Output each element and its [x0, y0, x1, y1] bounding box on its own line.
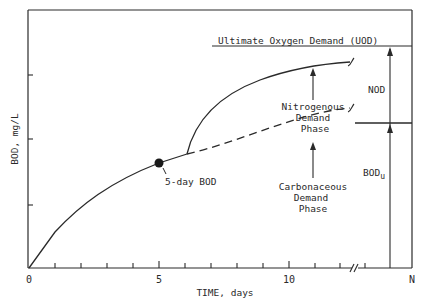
carbonaceous-label-line3: Phase: [299, 203, 328, 214]
bodu-label: BODu: [363, 167, 385, 181]
bod-diagram: Ultimate Oxygen Demand (UOD) Nitrogenous…: [0, 0, 424, 303]
x-tick-5: 5: [156, 274, 162, 285]
x-axis-label: TIME, days: [196, 287, 253, 298]
x-tick-10: 10: [283, 274, 295, 285]
five-day-bod-label: 5-day BOD: [165, 176, 217, 187]
nod-label: NOD: [368, 84, 385, 95]
uod-label: Ultimate Oxygen Demand (UOD): [218, 35, 378, 46]
carbonaceous-curve-solid: [29, 154, 187, 268]
nod-arrow-icon: [387, 47, 393, 56]
plot-frame: [28, 10, 412, 268]
five-day-bod-pointer: [163, 168, 166, 174]
carbonaceous-arrow-icon: [310, 142, 316, 150]
carbonaceous-label-line2: Demand: [294, 192, 328, 203]
nitrogenous-label-line3: Phase: [301, 123, 330, 134]
x-tick-n: N: [409, 274, 415, 285]
x-axis-ticks: [55, 261, 365, 268]
five-day-bod-point: [155, 159, 164, 168]
carbonaceous-label-line1: Carbonaceous: [279, 181, 348, 192]
dashed-curve-break-icon: [348, 104, 354, 112]
x-tick-0: 0: [26, 274, 32, 285]
y-axis-label: BOD, mg/L: [9, 113, 20, 165]
nitrogenous-label-line1: Nitrogenous: [282, 101, 345, 112]
bodu-arrow-icon: [387, 124, 393, 133]
nitrogenous-arrow-icon: [310, 68, 316, 76]
nitrogenous-label-line2: Demand: [296, 112, 330, 123]
y-axis-ticks: [28, 75, 33, 205]
